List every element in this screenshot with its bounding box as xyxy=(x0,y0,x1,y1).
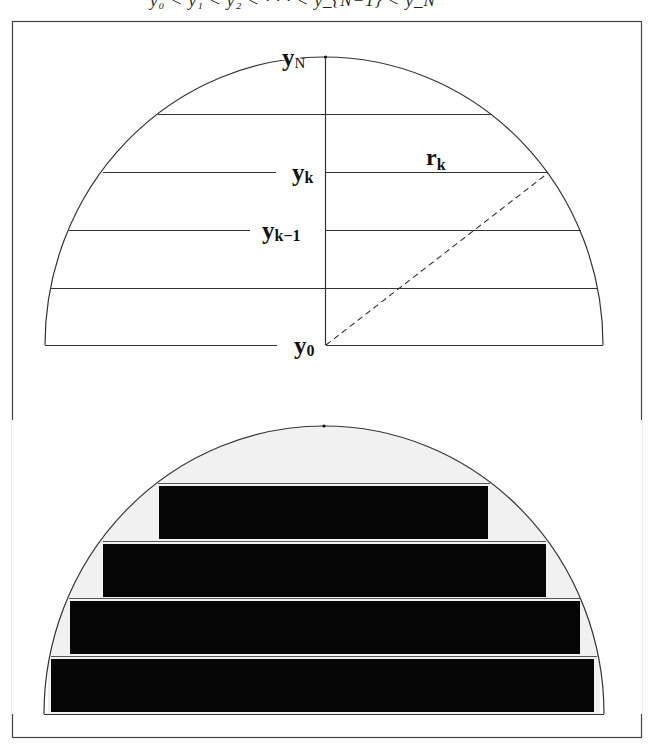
inscribed-bar-1 xyxy=(51,659,594,712)
inscribed-bar-3 xyxy=(103,544,546,597)
top-panel: yN yk yk−1 y0 rk xyxy=(45,44,603,359)
axis-top-dot xyxy=(324,55,327,58)
top-semicircle-arc xyxy=(45,57,603,345)
label-y0: y0 xyxy=(294,332,315,359)
label-rk: rk xyxy=(426,144,446,173)
inscribed-bar-2 xyxy=(70,601,580,654)
figure: yN yk yk−1 y0 rk xyxy=(0,0,654,748)
bottom-panel xyxy=(12,420,642,715)
label-yk-1: yk−1 xyxy=(262,217,301,244)
radius-dashed-line xyxy=(326,173,548,345)
bottom-apex-dot xyxy=(322,424,325,427)
label-yk: yk xyxy=(292,159,314,186)
inscribed-bar-4 xyxy=(159,486,488,539)
label-yN: yN xyxy=(282,44,306,71)
